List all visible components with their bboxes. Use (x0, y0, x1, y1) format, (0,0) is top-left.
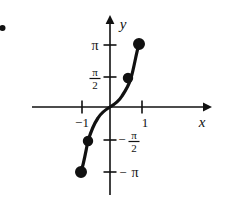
upper-endpoint (134, 39, 144, 49)
neg-pi-glyph: π (131, 165, 138, 180)
x-tick-label-neg1: −1 (75, 115, 89, 130)
pi-over-2-numerator: π (92, 66, 98, 78)
y-tick-label-pi: π (91, 38, 98, 53)
pi-over-2-denominator: 2 (92, 79, 98, 91)
x-tick-label-pos1: 1 (142, 115, 149, 130)
neg-pi-over-2-sign: − (118, 132, 125, 147)
coordinate-plot: x y −1 1 π π 2 − π 2 (0, 0, 225, 201)
y-axis-arrowhead (106, 15, 115, 24)
x-axis (32, 103, 212, 112)
neg-pi-sign: − (119, 165, 126, 180)
neg-pi-over-2-denominator: 2 (131, 142, 137, 154)
neg-pi-over-2-numerator: π (131, 129, 137, 141)
y-axis-label: y (118, 16, 127, 32)
x-axis-label: x (198, 114, 206, 130)
y-tick-label-neg-pi-over-2: − π 2 (118, 129, 139, 154)
corner-bullet-mark (0, 25, 6, 31)
y-tick-label-pi-over-2: π 2 (90, 66, 101, 91)
lower-mid-point (84, 137, 93, 146)
x-axis-arrowhead (203, 103, 212, 112)
upper-mid-point (124, 74, 133, 83)
lower-endpoint (76, 167, 86, 177)
graph-figure: x y −1 1 π π 2 − π 2 (0, 0, 225, 201)
y-tick-label-neg-pi: − π (119, 165, 138, 180)
